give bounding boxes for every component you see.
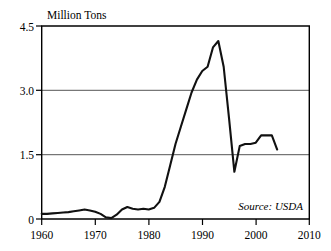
x-axis-ticks xyxy=(42,219,310,225)
y-axis-ticks xyxy=(36,26,42,219)
ytick-label-3.0: 3.0 xyxy=(20,85,35,97)
x-axis-tick-labels: 1960 1970 1980 1990 2000 2010 xyxy=(30,229,321,241)
line-chart: 4.5 3.0 1.5 0 1960 1970 1980 1990 2000 2… xyxy=(0,0,331,251)
axis-frame xyxy=(41,26,310,219)
source-annotation: Source: USDA xyxy=(238,200,303,212)
xtick-label-1970: 1970 xyxy=(84,229,107,241)
chart-container: 4.5 3.0 1.5 0 1960 1970 1980 1990 2000 2… xyxy=(0,0,331,251)
ytick-label-4.5: 4.5 xyxy=(20,21,35,33)
xtick-label-2010: 2010 xyxy=(298,229,321,241)
xtick-label-1990: 1990 xyxy=(191,229,214,241)
data-series-line xyxy=(42,41,277,218)
xtick-label-1960: 1960 xyxy=(30,229,53,241)
xtick-label-2000: 2000 xyxy=(245,229,268,241)
ytick-label-0: 0 xyxy=(28,214,34,226)
chart-title: Million Tons xyxy=(47,9,107,21)
ytick-label-1.5: 1.5 xyxy=(20,149,35,161)
xtick-label-1980: 1980 xyxy=(137,229,160,241)
y-axis-tick-labels: 4.5 3.0 1.5 0 xyxy=(20,21,35,226)
